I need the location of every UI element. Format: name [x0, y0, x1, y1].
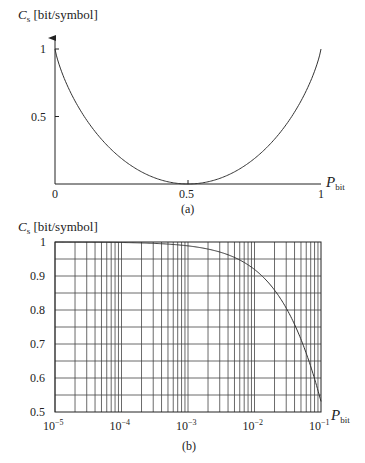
chart-a-xtick-0: 0: [52, 188, 58, 200]
ylabel-sub: s: [27, 226, 31, 236]
xlabel-symbol: P: [326, 174, 335, 190]
xlabel-symbol: P: [331, 407, 340, 423]
chart-b-ytick: 0.9: [30, 270, 45, 282]
chart-a-ytick-1: 1: [40, 43, 46, 55]
chart-b-caption: (b): [182, 440, 196, 452]
chart-b-ytick: 0.5: [30, 406, 45, 418]
chart-b-xtick: 10−5: [43, 419, 64, 432]
chart-b-ylabel: Cs [bit/symbol]: [18, 220, 98, 236]
chart-b: [55, 242, 321, 412]
ylabel-unit: [bit/symbol]: [33, 7, 97, 22]
chart-b-ytick: 0.8: [30, 304, 45, 316]
ylabel-symbol: C: [18, 219, 27, 234]
chart-b-xtick: 10−1: [309, 419, 330, 432]
chart-b-grid: [55, 242, 321, 412]
xlabel-sub: bit: [335, 182, 345, 192]
chart-b-xtick: 10−3: [176, 419, 197, 432]
ylabel-sub: s: [27, 14, 31, 24]
chart-a-xlabel: Pbit: [326, 175, 345, 192]
chart-a-caption: (a): [181, 203, 194, 215]
chart-b-xtick: 10−2: [243, 419, 264, 432]
chart-b-ytick: 0.7: [30, 338, 45, 350]
chart-a-curve: [55, 49, 321, 184]
chart-b-ytick: 1: [40, 236, 46, 248]
chart-b-xlabel: Pbit: [331, 408, 350, 425]
ylabel-symbol: C: [18, 7, 27, 22]
chart-a: [55, 38, 321, 184]
chart-a-ytick-05: 0.5: [31, 111, 46, 123]
ylabel-unit: [bit/symbol]: [33, 219, 97, 234]
chart-a-ylabel: Cs [bit/symbol]: [18, 8, 98, 24]
xlabel-sub: bit: [340, 415, 350, 425]
chart-b-xtick: 10−4: [110, 419, 131, 432]
chart-a-xtick-05: 0.5: [179, 188, 194, 200]
chart-a-xtick-1: 1: [318, 188, 324, 200]
chart-b-ytick: 0.6: [30, 372, 45, 384]
